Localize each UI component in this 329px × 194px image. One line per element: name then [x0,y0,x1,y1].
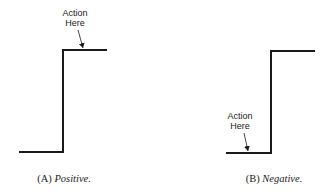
positive-action-arrow [78,30,83,48]
positive-action-label: Action Here [50,8,100,28]
negative-action-label-line2: Here [215,121,265,131]
negative-action-label: Action Here [215,111,265,131]
caption-negative-prefix: (B) [246,173,260,184]
caption-negative-title: Negative. [262,173,302,184]
diagram-canvas: Action Here Action Here (A) Positive. (B… [0,0,329,194]
caption-positive-prefix: (A) [37,173,52,184]
caption-negative: (B) Negative. [246,173,303,184]
negative-step-waveform [226,51,315,153]
positive-step-waveform [19,50,107,152]
waveforms-svg [0,0,329,194]
caption-positive: (A) Positive. [37,173,91,184]
caption-positive-title: Positive. [54,173,90,184]
positive-action-label-line2: Here [50,18,100,28]
negative-action-label-line1: Action [215,111,265,121]
positive-action-label-line1: Action [50,8,100,18]
negative-action-arrow [244,133,248,151]
